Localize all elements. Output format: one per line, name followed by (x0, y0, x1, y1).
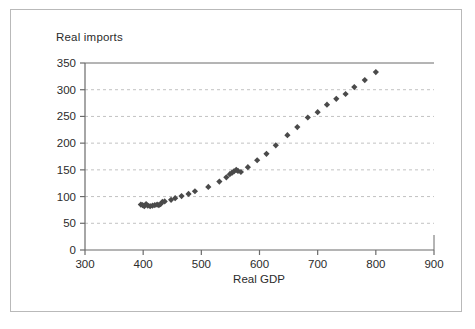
x-tick-label: 800 (366, 258, 385, 270)
data-point (254, 157, 260, 163)
y-tick-label: 250 (57, 110, 76, 122)
data-point (315, 109, 321, 115)
y-tick-label: 150 (57, 164, 76, 176)
data-point (245, 164, 251, 170)
data-point (305, 114, 311, 120)
data-point (342, 91, 348, 97)
y-tick-label: 50 (63, 217, 76, 229)
x-tick-labels-group: 300400500600700800900 (75, 258, 443, 270)
data-point (178, 193, 184, 199)
scatter-plot: 050100150200250300350 300400500600700800… (0, 0, 475, 329)
data-point (362, 77, 368, 83)
data-point (373, 69, 379, 75)
x-tick-label: 600 (250, 258, 269, 270)
data-point (284, 132, 290, 138)
x-tick-label: 400 (134, 258, 153, 270)
data-point (351, 84, 357, 90)
data-point (333, 96, 339, 102)
data-points-group (138, 69, 379, 209)
data-point (205, 184, 211, 190)
y-tick-labels-group: 050100150200250300350 (57, 57, 76, 256)
y-tick-label: 0 (70, 244, 76, 256)
data-point (185, 191, 191, 197)
y-tick-label: 200 (57, 137, 76, 149)
y-tick-label: 100 (57, 191, 76, 203)
x-tick-label: 900 (424, 258, 443, 270)
y-tick-label: 300 (57, 84, 76, 96)
x-tick-label: 700 (308, 258, 327, 270)
data-point (263, 151, 269, 157)
figure-container: Real imports 050100150200250300350 30040… (0, 0, 475, 329)
data-point (192, 188, 198, 194)
data-point (294, 124, 300, 130)
y-tick-label: 350 (57, 57, 76, 69)
data-point (216, 179, 222, 185)
data-point (324, 102, 330, 108)
x-axis-title: Real GDP (233, 273, 285, 285)
x-tick-label: 500 (192, 258, 211, 270)
gridlines-group (85, 90, 434, 224)
x-tick-label: 300 (75, 258, 94, 270)
